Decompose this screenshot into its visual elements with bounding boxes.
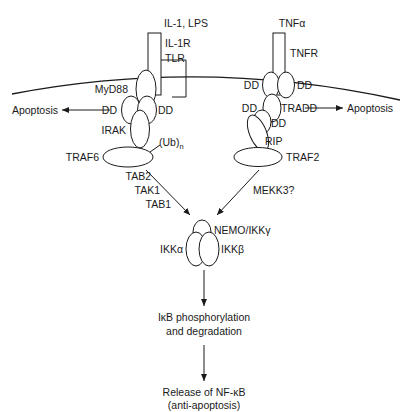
ubiquitin-label: (Ub)n [159, 136, 184, 151]
tak1-label: TAK1 [135, 184, 161, 196]
tradd-label: TRADD [281, 102, 318, 114]
tab2-label: TAB2 [126, 170, 152, 182]
irak-label: IRAK [101, 124, 126, 136]
ligand-left-label: IL-1, LPS [164, 17, 208, 29]
myd88-label: MyD88 [95, 83, 128, 95]
ikk-beta-label: IKKβ [221, 243, 244, 255]
rip-label: RIP [265, 135, 283, 147]
traf2-label: TRAF2 [286, 151, 319, 163]
pathway-canvas: IL-1, LPS IL-1R TLR TNFα TNFR MyD88 DD D… [0, 0, 411, 412]
tnfr-dd-lower-label: DD [242, 102, 258, 114]
nemo-label: NEMO/IKKγ [214, 224, 271, 236]
tnfr-dd-right-ellipse [278, 72, 295, 98]
mekk3-label: MEKK3? [253, 184, 295, 196]
tab1-label: TAB1 [146, 198, 172, 210]
ikk-beta-ellipse [199, 232, 219, 266]
rip-dd-label: DD [271, 117, 287, 129]
left-apoptosis-label: Apoptosis [12, 104, 58, 116]
il1r-cytoplasmic-tail [161, 60, 186, 97]
pathway-diagram: IL-1, LPS IL-1R TLR TNFα TNFR MyD88 DD D… [0, 0, 411, 412]
receptor-tnfr-label: TNFR [290, 47, 318, 59]
ikk-alpha-label: IKKα [160, 243, 183, 255]
nfkb-release-line2: (anti-apoptosis) [168, 399, 240, 411]
tnfr-dd-left-label: DD [244, 79, 260, 91]
receptor-il1r-label: IL-1R [165, 37, 191, 49]
dd-right-label: DD [158, 104, 174, 116]
traf2-ellipse [234, 148, 282, 167]
tnfr-dd-right-label: DD [297, 79, 313, 91]
dd-left-label: DD [102, 104, 118, 116]
receptor-tlr-label: TLR [165, 52, 185, 64]
right-apoptosis-label: Apoptosis [347, 102, 393, 114]
traf6-label: TRAF6 [66, 151, 99, 163]
ligand-right-label: TNFα [279, 17, 305, 29]
plasma-membrane [12, 77, 400, 100]
traf6-ellipse [103, 147, 153, 167]
irak-ellipse [131, 110, 150, 148]
ikb-phosphorylation-line2: and degradation [166, 325, 242, 337]
ikb-phosphorylation-line1: IκB phosphorylation [158, 311, 250, 323]
nfkb-release-line1: Release of NF-κB [163, 386, 246, 398]
